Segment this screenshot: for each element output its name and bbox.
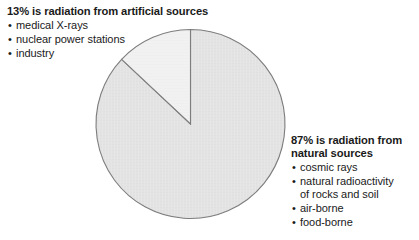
radiation-sources-figure: 13% is radiation from artificial sources… — [0, 0, 419, 240]
annotation-natural-sources: 87% is radiation from natural sources • … — [291, 134, 419, 230]
list-item: • air-borne — [291, 202, 419, 215]
list-item-label: air-borne — [300, 202, 344, 214]
list-item-label: industry — [16, 47, 54, 59]
list-item: • natural radioactivity of rocks and soi… — [291, 175, 419, 201]
list-item: • industry — [7, 47, 247, 60]
list-item-label: nuclear power stations — [16, 33, 125, 45]
list-item: • food-borne — [291, 216, 419, 229]
list-item-label: food-borne — [300, 216, 353, 228]
bullet-icon: • — [292, 216, 296, 229]
natural-sources-list: • cosmic rays • natural radioactivity of… — [291, 161, 419, 229]
list-item: • nuclear power stations — [7, 33, 247, 46]
bullet-icon: • — [8, 47, 12, 60]
artificial-sources-list: • medical X-rays • nuclear power station… — [7, 19, 247, 60]
list-item: • medical X-rays — [7, 19, 247, 32]
bullet-icon: • — [8, 19, 12, 32]
list-item-label: cosmic rays — [300, 161, 358, 173]
list-item: • cosmic rays — [291, 161, 419, 174]
bullet-icon: • — [292, 161, 296, 174]
artificial-sources-heading: 13% is radiation from artificial sources — [7, 5, 247, 18]
bullet-icon: • — [292, 202, 296, 215]
bullet-icon: • — [292, 175, 296, 188]
list-item-label: natural radioactivity of rocks and soil — [300, 175, 394, 200]
list-item-label: medical X-rays — [16, 19, 88, 31]
annotation-artificial-sources: 13% is radiation from artificial sources… — [7, 5, 247, 61]
natural-sources-heading: 87% is radiation from natural sources — [291, 134, 419, 160]
bullet-icon: • — [8, 33, 12, 46]
